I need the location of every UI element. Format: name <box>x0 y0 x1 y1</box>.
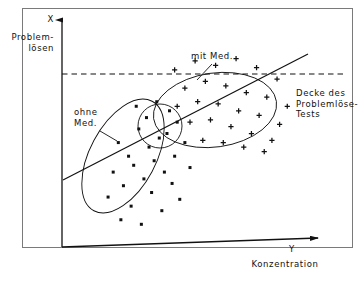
data-point-plus <box>223 83 228 88</box>
data-point-dot <box>142 177 145 180</box>
y-axis-symbol: X <box>20 14 54 25</box>
data-point-plus <box>241 145 246 150</box>
data-point-dot <box>153 159 156 162</box>
data-point-plus <box>233 56 238 61</box>
data-point-dot <box>158 137 161 140</box>
ceiling-annotation: Decke des Problemlöse- Tests <box>296 88 358 120</box>
data-point-plus <box>216 101 221 106</box>
data-point-dot <box>178 198 181 201</box>
data-point-plus <box>277 122 282 127</box>
data-point-plus <box>203 79 208 84</box>
data-point-dot <box>107 196 110 199</box>
data-point-plus <box>221 140 226 145</box>
data-point-dot <box>165 132 168 135</box>
data-point-dot <box>130 205 133 208</box>
data-point-plus <box>172 67 177 72</box>
data-point-dot <box>171 182 174 185</box>
x-axis-line <box>62 238 318 247</box>
data-point-dot <box>140 223 143 226</box>
data-point-dot <box>127 155 130 158</box>
plot-frame <box>23 9 353 248</box>
data-point-dot <box>160 209 163 212</box>
y-axis-label: Problem- lösen <box>2 32 54 53</box>
data-point-plus <box>269 138 274 143</box>
data-point-plus <box>175 104 180 109</box>
data-point-plus <box>228 124 233 129</box>
data-point-plus <box>264 95 269 100</box>
data-point-plus <box>254 65 259 70</box>
leader-mit-med <box>197 64 212 80</box>
data-point-plus <box>236 108 241 113</box>
group-ohne-med-label: ohne Med. <box>74 107 98 128</box>
data-point-plus <box>244 90 249 95</box>
data-point-dot <box>163 171 166 174</box>
data-point-dot <box>176 121 179 124</box>
x-axis-label: Konzentration <box>215 259 355 270</box>
data-point-dot <box>148 146 151 149</box>
data-point-dot <box>137 127 140 130</box>
data-point-plus <box>187 120 192 125</box>
data-point-dot <box>155 100 158 103</box>
group-mit-med-label: mit Med. <box>191 51 233 62</box>
data-point-plus <box>200 138 205 143</box>
data-point-dot <box>132 164 135 167</box>
data-point-plus <box>195 99 200 104</box>
figure-canvas: X Problem- lösen Y Konzentration Decke d… <box>0 0 360 284</box>
data-point-dot <box>119 218 122 221</box>
data-point-plus <box>262 149 267 154</box>
data-point-dot <box>173 155 176 158</box>
data-point-plus <box>182 86 187 91</box>
x-axis-symbol: Y <box>289 244 295 255</box>
data-point-dot <box>145 116 148 119</box>
data-point-dot <box>189 166 192 169</box>
trend-line <box>63 54 308 180</box>
data-point-plus <box>208 117 213 122</box>
data-point-dot <box>168 109 171 112</box>
data-point-dot <box>112 171 115 174</box>
data-point-dot <box>150 191 153 194</box>
data-point-plus <box>213 63 218 68</box>
data-point-dot <box>183 141 186 144</box>
data-point-dot <box>117 141 120 144</box>
data-point-dot <box>122 184 125 187</box>
data-point-plus <box>274 76 279 81</box>
scatter-plot-svg <box>0 0 360 284</box>
leader-ohne-med <box>100 131 117 141</box>
data-point-plus <box>257 113 262 118</box>
circle-overlap <box>138 104 182 148</box>
data-point-plus <box>285 104 290 109</box>
data-point-dot <box>135 105 138 108</box>
